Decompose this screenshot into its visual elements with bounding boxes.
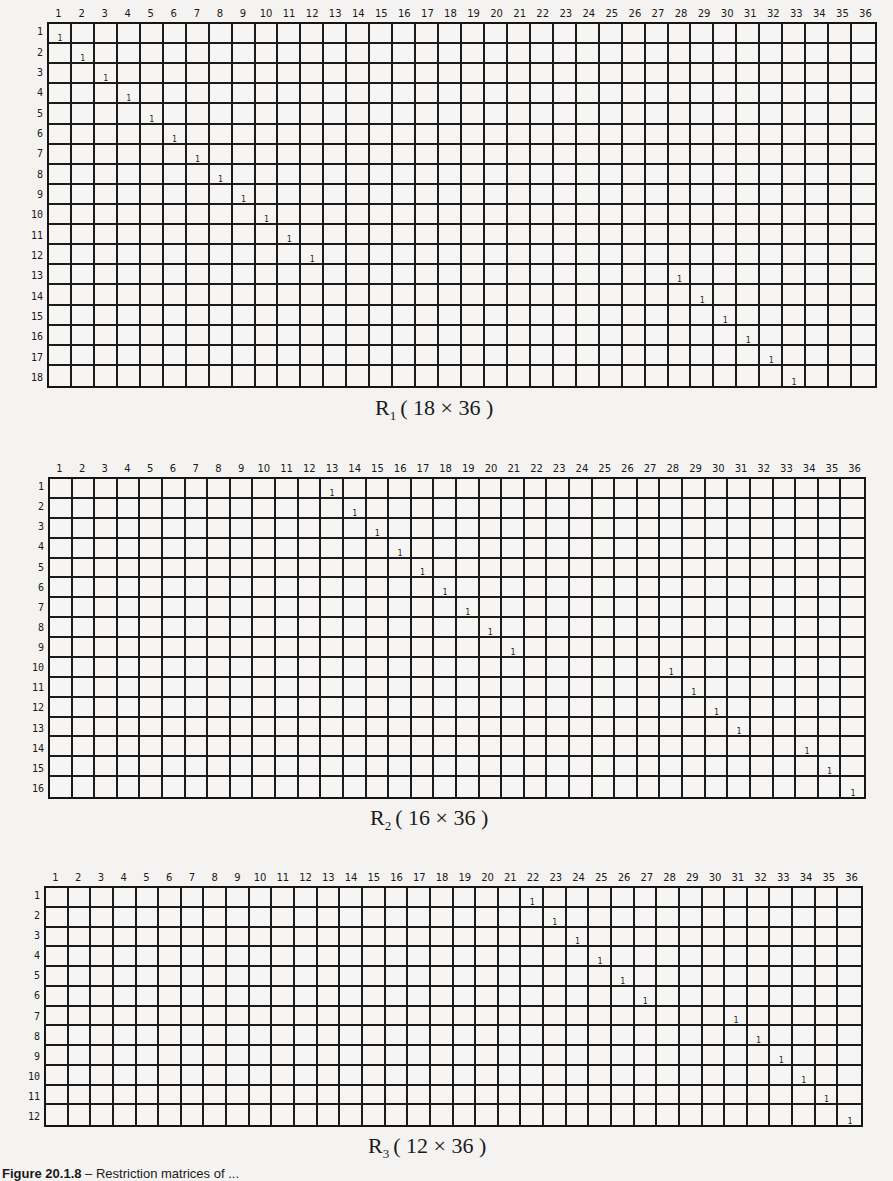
matrix-cell: [367, 559, 390, 579]
matrix-cell: [615, 757, 638, 777]
matrix-cell: 1: [714, 306, 737, 326]
matrix-cell: [69, 928, 92, 948]
matrix-cell: 1: [233, 185, 256, 205]
matrix-cell: [431, 1007, 454, 1027]
matrix-cell: [819, 578, 842, 598]
matrix-cell: [646, 165, 669, 185]
matrix-cell: [615, 598, 638, 618]
row-label: 6: [14, 990, 40, 1001]
matrix-cell: [680, 947, 703, 967]
matrix-cell: [141, 44, 164, 64]
matrix-cell: [187, 185, 210, 205]
matrix-cell: [324, 346, 347, 366]
matrix-cell: [623, 84, 646, 104]
matrix-cell: [416, 265, 439, 285]
matrix-cell: [164, 306, 187, 326]
matrix-cell: 1: [635, 987, 658, 1007]
matrix-cell: [256, 165, 279, 185]
matrix-cell: [389, 519, 412, 539]
matrix-cell: [457, 658, 480, 678]
cell-value: 1: [723, 317, 728, 325]
matrix-cell: [623, 306, 646, 326]
matrix-cell: [278, 165, 301, 185]
matrix-cell: [646, 306, 669, 326]
matrix-cell: [412, 718, 435, 738]
matrix-cell: [164, 326, 187, 346]
matrix-cell: [386, 908, 409, 928]
matrix-cell: [669, 165, 692, 185]
matrix-cell: [301, 326, 324, 346]
matrix-cell: [431, 967, 454, 987]
matrix-cell: [272, 1046, 295, 1066]
matrix-cell: [600, 165, 623, 185]
matrix-cell: [164, 165, 187, 185]
matrix-cell: [227, 928, 250, 948]
matrix-cell: [91, 947, 114, 967]
matrix-cell: [118, 499, 141, 519]
matrix-cell: [347, 165, 370, 185]
matrix-cell: [783, 24, 806, 44]
matrix-cell: [431, 1026, 454, 1046]
matrix-cell: [600, 346, 623, 366]
matrix-cell: [408, 1105, 431, 1125]
matrix-cell: [748, 928, 771, 948]
matrix-cell: [593, 578, 616, 598]
matrix-cell: [210, 225, 233, 245]
matrix-cell: [554, 245, 577, 265]
matrix-cell: [46, 1026, 69, 1046]
matrix-cell: [439, 145, 462, 165]
matrix-cell: [660, 539, 683, 559]
matrix-cell: [278, 125, 301, 145]
column-label: 18: [434, 463, 457, 474]
matrix-cell: [187, 326, 210, 346]
row-label: 9: [14, 1051, 40, 1062]
matrix-cell: [187, 84, 210, 104]
matrix-cell: [577, 44, 600, 64]
matrix-cell: [49, 44, 72, 64]
matrix-cell: [318, 1105, 341, 1125]
matrix-cell: [431, 1086, 454, 1106]
matrix-cell: [615, 479, 638, 499]
matrix-cell: [547, 757, 570, 777]
matrix-cell: [210, 125, 233, 145]
matrix-cell: [187, 205, 210, 225]
matrix-cell: [657, 1026, 680, 1046]
matrix-cell: [577, 125, 600, 145]
matrix-cell: [600, 245, 623, 265]
matrix-cell: [691, 346, 714, 366]
matrix-cell: [318, 987, 341, 1007]
matrix-cell: [72, 104, 95, 124]
column-label: 10: [253, 463, 276, 474]
matrix-cell: [301, 285, 324, 305]
matrix-cell: [208, 578, 231, 598]
matrix-cell: [182, 888, 205, 908]
matrix-cell: [751, 519, 774, 539]
matrix-cell: [367, 718, 390, 738]
matrix-cell: [819, 698, 842, 718]
matrix-cell: [301, 125, 324, 145]
matrix-cell: [114, 888, 137, 908]
matrix-cell: [46, 1007, 69, 1027]
row-label: 14: [18, 743, 44, 754]
matrix-cell: [796, 519, 819, 539]
matrix-cell: [69, 967, 92, 987]
matrix-cell: [476, 947, 499, 967]
column-label: 30: [716, 8, 739, 19]
column-label: 28: [670, 8, 693, 19]
matrix-cell: [806, 185, 829, 205]
matrix-cell: [256, 306, 279, 326]
cell-value: 1: [172, 136, 177, 144]
matrix-cell: [660, 718, 683, 738]
matrix-cell: [547, 598, 570, 618]
matrix-cell: [208, 658, 231, 678]
matrix-cell: 1: [278, 225, 301, 245]
column-label: 17: [416, 8, 439, 19]
matrix-cell: [646, 285, 669, 305]
matrix-cell: [683, 479, 706, 499]
matrix-cell: [480, 718, 503, 738]
matrix-cell: [233, 326, 256, 346]
matrix-cell: [363, 1026, 386, 1046]
matrix-cell: [623, 44, 646, 64]
column-label: 9: [230, 463, 253, 474]
matrix-cell: [657, 1086, 680, 1106]
